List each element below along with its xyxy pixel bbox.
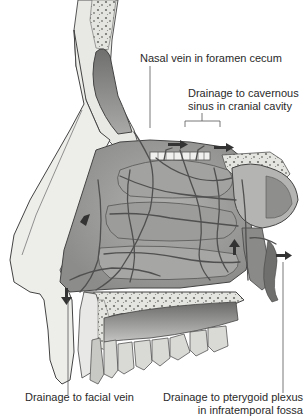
cribriform-plate	[150, 152, 210, 160]
label-pterygoid-line1: Drainage to pterygoid plexus	[163, 391, 303, 404]
label-cavernous-sinus-line2: sinus in cranial cavity	[188, 100, 292, 113]
label-facial-vein: Drainage to facial vein	[25, 391, 134, 404]
label-cavernous-sinus-line1: Drainage to cavernous	[188, 87, 299, 100]
label-pterygoid-line2: in infratemporal fossa	[198, 404, 303, 417]
label-nasal-vein: Nasal vein in foramen cecum	[140, 52, 282, 65]
arrow-pterygoid	[276, 251, 292, 260]
